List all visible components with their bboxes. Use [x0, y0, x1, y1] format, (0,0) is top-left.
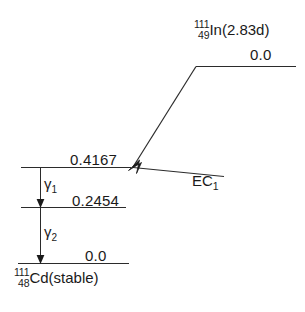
level-energy-daughter-ground: 0.0 [85, 248, 106, 263]
ec-label-text: EC [192, 172, 213, 189]
gamma2-subscript: 2 [52, 232, 58, 243]
daughter-symbol-state: Cd(stable) [29, 269, 98, 286]
gamma2-label: γ2 [44, 224, 57, 243]
ec-transition-line [133, 67, 196, 168]
level-energy-0-4167: 0.4167 [70, 152, 117, 167]
decay-scheme-figure: 111 49 In(2.83d) 0.0 EC1 0.4167 0.2454 0… [0, 0, 305, 312]
daughter-atomic-number: 48 [14, 278, 29, 289]
parent-level-energy: 0.0 [250, 47, 271, 62]
gamma2-arrowhead [37, 255, 45, 264]
parent-atomic-number: 49 [194, 30, 209, 41]
ec-label-subscript: 1 [213, 180, 219, 192]
ec-transition-label: EC1 [192, 173, 219, 192]
parent-nuclide-numbers: 111 49 [194, 19, 209, 41]
daughter-nuclide-numbers: 111 48 [14, 267, 29, 289]
parent-nuclide-label: 111 49 In(2.83d) [194, 20, 269, 42]
gamma2-symbol: γ [44, 223, 52, 240]
parent-symbol-halflife: In(2.83d) [209, 21, 269, 38]
ec-arrowhead [129, 160, 142, 174]
gamma1-subscript: 1 [52, 184, 58, 195]
level-energy-0-2454: 0.2454 [72, 193, 119, 208]
gamma1-label: γ1 [44, 176, 57, 195]
gamma1-symbol: γ [44, 175, 52, 192]
daughter-nuclide-label: 111 48 Cd(stable) [14, 268, 99, 290]
gamma1-arrowhead [37, 199, 45, 208]
